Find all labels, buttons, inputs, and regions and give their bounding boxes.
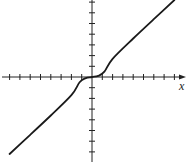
x-axis-label: x: [179, 80, 184, 92]
function-graph: [0, 0, 188, 162]
